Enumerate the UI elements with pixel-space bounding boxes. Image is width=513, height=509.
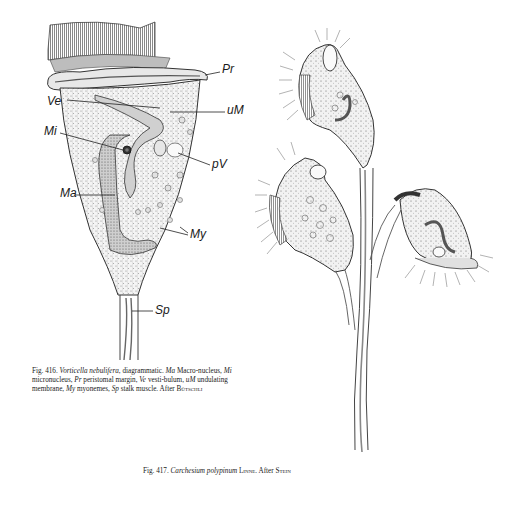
label-um: uM xyxy=(227,104,244,116)
caption-text: myonemes, xyxy=(75,385,112,393)
caption-fig-number: Fig. 417. xyxy=(143,467,169,475)
zooid-top xyxy=(279,28,374,168)
zooid-left xyxy=(255,142,353,272)
caption-abbr-pr: Pr xyxy=(74,376,81,384)
caption-text: stalk muscle. After xyxy=(119,385,177,393)
caption-abbr-ma: Ma xyxy=(166,367,176,375)
label-pr: Pr xyxy=(222,63,234,75)
caption-text: . After xyxy=(255,467,275,475)
caption-abbr-my: My xyxy=(66,385,75,393)
caption-fig-416: Fig. 416. Vorticella nebulifera, diagram… xyxy=(32,367,257,394)
label-my: My xyxy=(190,228,206,240)
caption-abbr-mi: Mi xyxy=(224,367,232,375)
label-mi: Mi xyxy=(44,125,57,137)
caption-fig-417: Fig. 417. Carchesium polypinum Linne. Af… xyxy=(143,467,393,476)
caption-text: , diagrammatic. xyxy=(119,367,166,375)
caption-text: micronucleus, xyxy=(32,376,74,384)
caption-author: Stein xyxy=(276,467,291,475)
label-ve: Ve xyxy=(47,95,61,107)
caption-abbr-sp: Sp xyxy=(112,385,119,393)
caption-text: vesti-bulum, xyxy=(146,376,186,384)
caption-fig-number: Fig. 416. xyxy=(32,367,58,375)
figure-417-carchesium xyxy=(255,20,513,460)
carchesium-illustration xyxy=(255,20,513,460)
caption-abbr-um: uM xyxy=(186,376,196,384)
label-ma: Ma xyxy=(60,187,77,199)
caption-author: Bütschli xyxy=(177,385,203,393)
label-pv: pV xyxy=(212,158,227,170)
caption-text: Macro-nucleus, xyxy=(175,367,224,375)
caption-authority: Linne xyxy=(239,467,255,475)
caption-species: Vorticella nebulifera xyxy=(60,367,119,375)
caption-species: Carchesium polypinum xyxy=(171,467,238,475)
caption-text: peristomal margin, xyxy=(82,376,140,384)
label-sp: Sp xyxy=(155,304,170,316)
zooid-right xyxy=(395,189,493,287)
figure-416-vorticella: Pr Ve uM Mi pV Ma My Sp xyxy=(20,20,260,360)
